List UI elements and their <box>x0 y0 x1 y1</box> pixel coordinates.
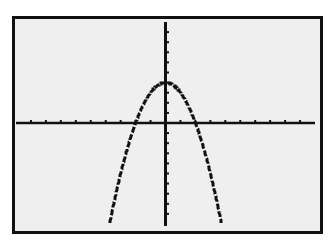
graph-plot <box>0 0 332 250</box>
